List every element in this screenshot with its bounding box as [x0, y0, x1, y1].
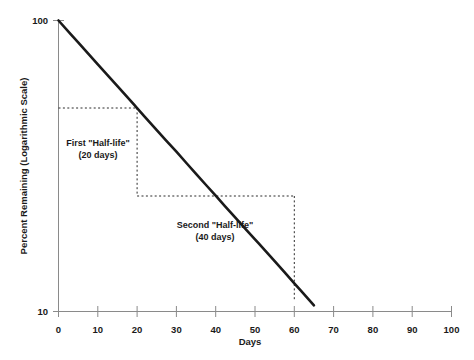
y-tick-label-100: 100 [32, 15, 48, 26]
y-tick-label-10: 10 [37, 306, 48, 317]
x-tick-label-90: 90 [407, 324, 418, 335]
second-half-life-label-line1: Second "Half-life" [177, 220, 254, 230]
x-axis-title: Days [239, 336, 262, 347]
x-tick-label-50: 50 [250, 324, 261, 335]
decay-chart-figure: 100 10 0 10 20 30 40 50 60 70 80 90 [0, 0, 474, 360]
second-half-life-guides [137, 196, 294, 300]
first-half-life-annotation: First "Half-life" (20 days) [66, 138, 130, 160]
y-axis-title: Percent Remaining (Logarithmic Scale) [18, 78, 29, 255]
x-tick-label-20: 20 [132, 324, 143, 335]
x-tick-label-30: 30 [171, 324, 182, 335]
x-tick-label-70: 70 [328, 324, 339, 335]
chart-canvas: 100 10 0 10 20 30 40 50 60 70 80 90 [0, 0, 474, 360]
y-axis-ticks: 100 10 [32, 15, 64, 317]
second-half-life-label-line2: (40 days) [195, 232, 234, 242]
first-half-life-label-line1: First "Half-life" [66, 138, 130, 148]
second-half-life-annotation: Second "Half-life" (40 days) [177, 220, 254, 242]
x-tick-label-10: 10 [93, 324, 104, 335]
first-half-life-label-line2: (20 days) [78, 150, 117, 160]
x-tick-label-100: 100 [444, 324, 460, 335]
x-axis-ticks: 0 10 20 30 40 50 60 70 80 90 100 [56, 306, 460, 335]
axes-group [59, 20, 453, 312]
x-tick-label-80: 80 [368, 324, 379, 335]
x-tick-label-40: 40 [210, 324, 221, 335]
x-tick-label-60: 60 [289, 324, 300, 335]
x-tick-label-0: 0 [56, 324, 61, 335]
decay-curve-line [59, 21, 314, 306]
